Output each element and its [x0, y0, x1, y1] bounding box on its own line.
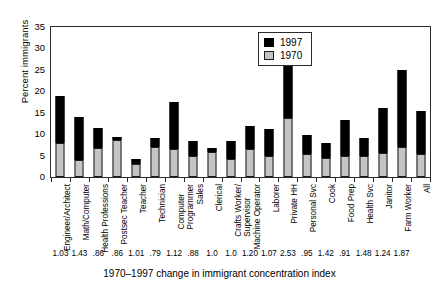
x-category-label-line: Supervisor	[243, 184, 252, 237]
x-category-label: Janitor	[386, 184, 395, 209]
table-row[interactable]	[75, 117, 84, 177]
x-tick-mark	[203, 178, 204, 182]
table-row[interactable]	[359, 138, 368, 177]
bar-segment-1970	[132, 164, 141, 177]
x-category-label: Technician	[159, 184, 168, 223]
x-tick-mark	[316, 178, 317, 182]
x-category-label-line: Food Prep	[347, 184, 356, 222]
x-tick-mark	[411, 178, 412, 182]
x-category-label: Private HH	[291, 184, 300, 224]
bar-segment-1970	[94, 148, 103, 177]
x-category-label: Cook	[329, 184, 338, 203]
bar-segment-1997	[56, 96, 65, 142]
bar-segment-1997	[302, 135, 311, 154]
x-axis-caption: 1970–1997 change in immigrant concentrat…	[0, 268, 439, 279]
bar-segment-1997	[170, 102, 179, 149]
x-category-label: Food Prep	[348, 184, 357, 222]
bar-segment-1970	[397, 147, 406, 177]
table-row[interactable]	[321, 143, 330, 177]
bar-segment-1970	[321, 158, 330, 177]
bar-segment-1970	[75, 160, 84, 177]
x-category-label-line: Machine Operator	[253, 184, 262, 250]
x-category-label: Farm Worker	[405, 184, 414, 232]
bar-segment-1970	[151, 147, 160, 177]
x-category-label: Postsec Teacher	[121, 184, 130, 244]
bar-segment-1970	[170, 149, 179, 177]
bar-segment-1970	[359, 156, 368, 177]
bar-segment-1997	[416, 111, 425, 155]
x-category-label-line: Personal Svc	[309, 184, 318, 232]
cropped-title-sliver	[0, 0, 439, 7]
x-category-label: Crafts Worker/Supervisor	[235, 184, 252, 237]
x-tick-mark	[259, 178, 260, 182]
x-category-label-line: Math/Computer	[82, 184, 91, 240]
table-row[interactable]	[397, 70, 406, 177]
y-tick-label-15: 15	[15, 108, 45, 118]
x-tick-mark	[146, 178, 147, 182]
bar-segment-1970	[416, 154, 425, 177]
y-tick-label-25: 25	[15, 65, 45, 75]
x-category-label-line: Janitor	[385, 184, 394, 209]
table-row[interactable]	[94, 128, 103, 177]
x-category-label-line: Private HH	[290, 184, 299, 224]
bar-segment-1997	[378, 108, 387, 153]
x-category-label: Personal Svc	[310, 184, 319, 232]
bar-segment-1970	[378, 153, 387, 177]
x-category-label: Health Svc	[367, 184, 376, 224]
table-row[interactable]	[132, 159, 141, 177]
bar-segment-1997	[397, 70, 406, 147]
table-row[interactable]	[340, 120, 349, 177]
bar-segment-1997	[359, 138, 368, 156]
bar-segment-1970	[340, 156, 349, 177]
x-category-label-line: Postsec Teacher	[120, 184, 129, 244]
x-category-label: Health Professions	[102, 184, 111, 253]
x-tick-mark	[373, 178, 374, 182]
x-tick-mark	[184, 178, 185, 182]
x-category-label-line: Health Professions	[101, 184, 110, 253]
table-row[interactable]	[113, 137, 122, 177]
x-tick-mark	[70, 178, 71, 182]
table-row[interactable]	[208, 148, 217, 177]
table-row[interactable]	[151, 138, 160, 177]
table-row[interactable]	[302, 135, 311, 177]
bar-segment-1997	[227, 141, 236, 159]
x-category-label: Math/Computer	[83, 184, 92, 240]
table-row[interactable]	[416, 111, 425, 177]
table-row[interactable]	[56, 96, 65, 177]
x-category-label-line: Programmer	[186, 184, 195, 230]
x-category-label-line: Sales	[196, 184, 205, 204]
x-tick-mark	[222, 178, 223, 182]
bar-segment-1970	[283, 118, 292, 177]
bar-segment-1970	[113, 140, 122, 177]
x-tick-mark	[51, 178, 52, 182]
x-category-label-line: Cook	[328, 184, 337, 203]
black-square-swatch-icon	[264, 38, 274, 47]
x-tick-mark	[430, 178, 431, 182]
x-tick-mark	[335, 178, 336, 182]
legend-item-1997: 1997	[264, 36, 302, 49]
bar-segment-1997	[75, 117, 84, 160]
bar-segment-1997	[245, 126, 254, 149]
legend-item-1970: 1970	[264, 49, 302, 62]
bar-segment-1970	[208, 152, 217, 177]
legend-label-1970: 1970	[280, 51, 302, 61]
x-category-label-line: Computer	[177, 194, 186, 230]
table-row[interactable]	[189, 141, 198, 177]
table-row[interactable]	[378, 108, 387, 177]
y-tick-label-5: 5	[15, 151, 45, 161]
legend-label-1997: 1997	[280, 38, 302, 48]
bar-segment-1970	[264, 156, 273, 177]
bar-segment-1970	[189, 156, 198, 177]
table-row[interactable]	[245, 126, 254, 177]
table-row[interactable]	[170, 102, 179, 177]
x-tick-mark	[165, 178, 166, 182]
bar-segment-1997	[94, 128, 103, 149]
table-row[interactable]	[227, 141, 236, 177]
gray-square-swatch-icon	[264, 51, 274, 60]
x-tick-mark	[278, 178, 279, 182]
table-row[interactable]	[264, 129, 273, 177]
x-tick-mark	[241, 178, 242, 182]
x-tick-mark	[297, 178, 298, 182]
x-category-label-line: Clerical	[215, 184, 224, 211]
y-tick-label-35: 35	[15, 22, 45, 32]
